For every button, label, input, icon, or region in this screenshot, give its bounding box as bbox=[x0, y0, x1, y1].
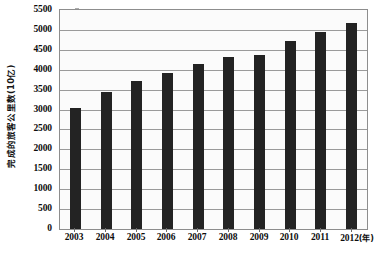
bar bbox=[162, 73, 173, 229]
x-axis-tick-labels: 2003200420052006200720082009201020112012… bbox=[59, 232, 366, 254]
bar-series bbox=[60, 10, 367, 229]
bar bbox=[254, 55, 265, 229]
bar-chart-figure: 完成的旅客公里数(10亿) 05001000150020002500300035… bbox=[0, 0, 377, 257]
x-axis-unit-label: (年) bbox=[359, 234, 374, 243]
bar bbox=[193, 64, 204, 229]
plot-area bbox=[59, 9, 368, 230]
x-axis-tick-label: 2003 bbox=[65, 232, 84, 242]
y-axis-tick-label: 4500 bbox=[33, 44, 52, 54]
x-axis-tick-label: 2012(年) bbox=[340, 232, 374, 243]
x-axis-tick-label: 2006 bbox=[157, 232, 176, 242]
y-axis-tick-label: 2000 bbox=[33, 143, 52, 153]
bar bbox=[285, 41, 296, 229]
bar bbox=[70, 108, 81, 229]
y-axis-tick-label: 1000 bbox=[33, 183, 52, 193]
bar bbox=[315, 32, 326, 229]
bar bbox=[223, 57, 234, 229]
bar bbox=[346, 23, 357, 229]
y-axis-tick-label: 3500 bbox=[33, 84, 52, 94]
y-axis-title: 完成的旅客公里数(10亿) bbox=[1, 0, 19, 232]
x-axis-tick-label: 2005 bbox=[127, 232, 146, 242]
y-axis-tick-label: 3000 bbox=[33, 104, 52, 114]
x-axis-tick-label: 2009 bbox=[250, 232, 269, 242]
x-axis-tick-label: 2007 bbox=[188, 232, 207, 242]
y-axis-title-text: 完成的旅客公里数(10亿) bbox=[4, 64, 16, 167]
x-axis-tick-label: 2004 bbox=[96, 232, 115, 242]
bar bbox=[101, 92, 112, 229]
bar bbox=[131, 81, 142, 229]
x-axis-tick-label: 2010 bbox=[280, 232, 299, 242]
y-axis-tick-label: 4000 bbox=[33, 64, 52, 74]
y-axis-tick-label: 5500 bbox=[33, 4, 52, 14]
y-axis-tick-label: 1500 bbox=[33, 163, 52, 173]
y-axis-tick-label: 0 bbox=[47, 223, 52, 233]
y-axis-tick-label: 500 bbox=[38, 203, 52, 213]
y-axis-tick-label: 2500 bbox=[33, 123, 52, 133]
x-axis-tick-label: 2011 bbox=[311, 232, 329, 242]
y-axis-tick-labels: 0500100015002000250030003500400045005000… bbox=[20, 0, 55, 240]
y-axis-tick-label: 5000 bbox=[33, 24, 52, 34]
x-axis-tick-label: 2008 bbox=[219, 232, 238, 242]
